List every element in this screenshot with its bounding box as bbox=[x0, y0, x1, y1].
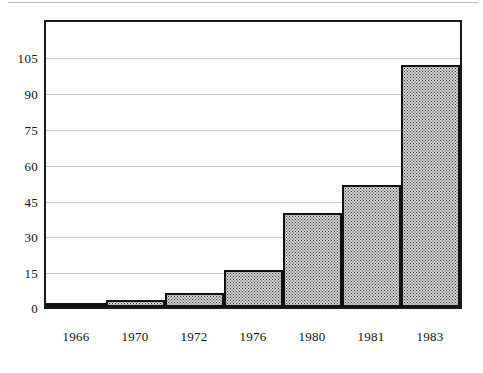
y-axis-tick-label: 30 bbox=[2, 231, 44, 244]
bar-1981[interactable] bbox=[342, 185, 401, 307]
x-axis-tick-label-1976: 1976 bbox=[239, 330, 266, 343]
bar-1983[interactable] bbox=[401, 65, 460, 307]
x-axis-tick-label-1972: 1972 bbox=[180, 330, 207, 343]
x-axis-tick-label-1981: 1981 bbox=[357, 330, 384, 343]
x-axis-tick-label-1980: 1980 bbox=[298, 330, 325, 343]
y-axis-tick-label: 45 bbox=[2, 196, 44, 209]
x-axis-tick-label-1983: 1983 bbox=[416, 330, 443, 343]
y-axis-labels: 105 90 75 60 45 30 15 0 bbox=[0, 0, 44, 373]
y-axis-tick-label: 60 bbox=[2, 160, 44, 173]
y-axis-tick-label: 105 bbox=[2, 52, 44, 65]
bar-1980[interactable] bbox=[283, 213, 342, 307]
bar-1966[interactable] bbox=[46, 303, 106, 307]
bar-1972[interactable] bbox=[165, 293, 224, 307]
bar-series bbox=[46, 22, 460, 307]
x-axis-tick-label-1966: 1966 bbox=[62, 330, 89, 343]
bar-1970[interactable] bbox=[106, 300, 165, 307]
y-axis-tick-label: 0 bbox=[2, 302, 44, 315]
y-axis-tick-label: 90 bbox=[2, 88, 44, 101]
x-axis-labels: 1966 1970 1972 1976 1980 1981 1983 bbox=[46, 330, 460, 352]
y-axis-tick-label: 75 bbox=[2, 124, 44, 137]
x-axis-tick-label-1970: 1970 bbox=[121, 330, 148, 343]
bar-1976[interactable] bbox=[224, 270, 283, 307]
page-top-rule bbox=[8, 2, 478, 3]
y-axis-tick-label: 15 bbox=[2, 267, 44, 280]
bar-chart-figure: 105 90 75 60 45 30 15 0 1966 1970 1972 1… bbox=[0, 0, 483, 373]
